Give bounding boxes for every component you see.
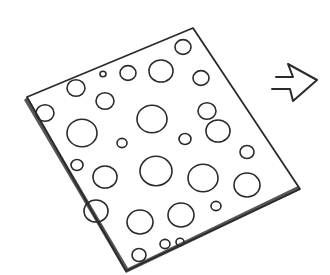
hole-circle — [168, 203, 194, 227]
hole-circle — [67, 119, 97, 147]
hole-circle — [234, 173, 260, 197]
hole-circle — [179, 133, 191, 144]
hole-circle — [188, 164, 218, 192]
holes-group — [36, 40, 260, 262]
hole-circle — [193, 71, 209, 86]
hole-circle — [137, 105, 167, 133]
hole-circle — [211, 201, 221, 210]
hole-circle — [240, 146, 254, 159]
hole-circle — [36, 105, 54, 122]
hole-circle — [132, 249, 146, 262]
hole-circle — [71, 159, 83, 170]
hole-circle — [120, 66, 136, 81]
hole-circle — [93, 166, 117, 188]
hole-circle — [127, 210, 153, 234]
perforated-sheet — [24, 28, 300, 273]
hole-circle — [198, 103, 216, 120]
hole-circle — [117, 138, 127, 147]
hole-circle — [96, 93, 114, 110]
hole-circle — [149, 60, 173, 82]
hole-circle — [175, 40, 191, 55]
hole-circle — [160, 239, 170, 248]
hole-circle — [206, 120, 230, 142]
sheet-outline — [27, 28, 300, 271]
arrow-icon — [272, 64, 317, 101]
hole-circle — [140, 156, 172, 185]
sketch-canvas — [0, 0, 330, 275]
hole-circle — [67, 80, 85, 97]
hole-circle — [100, 71, 106, 77]
